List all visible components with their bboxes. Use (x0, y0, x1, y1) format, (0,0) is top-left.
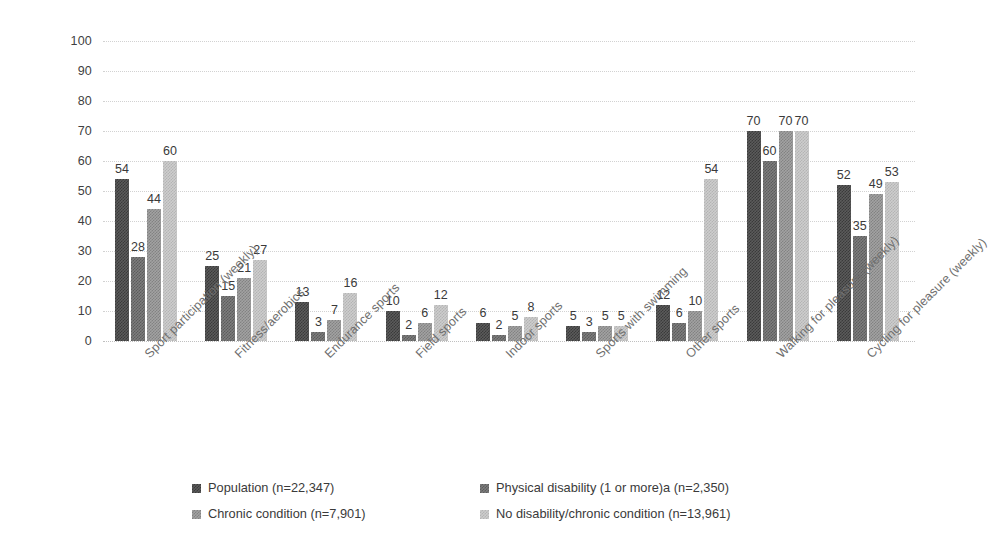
plot-area: 5428446025152127133716102612625853551261… (103, 41, 915, 341)
y-axis-tick-label: 40 (56, 214, 92, 228)
legend-item[interactable]: No disability/chronic condition (n=13,96… (480, 508, 730, 521)
bar-value-label: 12 (428, 288, 454, 302)
bar-value-label: 54 (698, 162, 724, 176)
bar[interactable] (779, 131, 793, 341)
y-axis: 0102030405060708090100 (52, 41, 92, 341)
bar[interactable] (237, 278, 251, 341)
legend-item-label: Population (n=22,347) (208, 482, 334, 495)
bar-group: 6258 (476, 41, 538, 341)
legend-item-label: No disability/chronic condition (n=13,96… (496, 508, 730, 521)
y-axis-tick-label: 80 (56, 94, 92, 108)
legend-swatch-icon (480, 484, 489, 493)
legend-item[interactable]: Physical disability (1 or more)a (n=2,35… (480, 482, 729, 495)
bar[interactable] (311, 332, 325, 341)
y-axis-tick-label: 30 (56, 244, 92, 258)
bar-value-label: 53 (879, 165, 905, 179)
y-axis-tick-label: 10 (56, 304, 92, 318)
bar-value-label: 60 (157, 144, 183, 158)
bar[interactable] (795, 131, 809, 341)
bar-value-label: 16 (337, 276, 363, 290)
bar-value-label: 70 (789, 114, 815, 128)
legend-item[interactable]: Population (n=22,347) (192, 482, 334, 495)
bar-value-label: 8 (518, 300, 544, 314)
bar-group: 54284460 (115, 41, 177, 341)
legend-swatch-icon (192, 484, 201, 493)
bar-value-label: 25 (199, 249, 225, 263)
bar-value-label: 52 (831, 168, 857, 182)
y-axis-tick-label: 0 (56, 334, 92, 348)
bar[interactable] (837, 185, 851, 341)
y-axis-tick-label: 20 (56, 274, 92, 288)
y-axis-tick-label: 100 (56, 34, 92, 48)
bar-value-label: 70 (741, 114, 767, 128)
legend-swatch-icon (480, 510, 489, 519)
y-axis-tick-label: 50 (56, 184, 92, 198)
bar[interactable] (672, 323, 686, 341)
legend-item-label: Chronic condition (n=7,901) (208, 508, 366, 521)
bar[interactable] (131, 257, 145, 341)
y-axis-tick-label: 60 (56, 154, 92, 168)
chart-legend: Population (n=22,347)Physical disability… (192, 482, 892, 542)
bar[interactable] (147, 209, 161, 341)
bar-group: 5355 (566, 41, 628, 341)
bar[interactable] (582, 332, 596, 341)
y-axis-tick-label: 70 (56, 124, 92, 138)
bar[interactable] (221, 296, 235, 341)
bar[interactable] (747, 131, 761, 341)
y-axis-tick-label: 90 (56, 64, 92, 78)
legend-item[interactable]: Chronic condition (n=7,901) (192, 508, 366, 521)
bar-value-label: 54 (109, 162, 135, 176)
legend-item-label: Physical disability (1 or more)a (n=2,35… (496, 482, 729, 495)
legend-swatch-icon (192, 510, 201, 519)
bar-group: 70607070 (747, 41, 809, 341)
bar[interactable] (115, 179, 129, 341)
bar[interactable] (163, 161, 177, 341)
x-axis: Sport participation (weekly)Fitness/aero… (103, 341, 915, 471)
bar[interactable] (763, 161, 777, 341)
